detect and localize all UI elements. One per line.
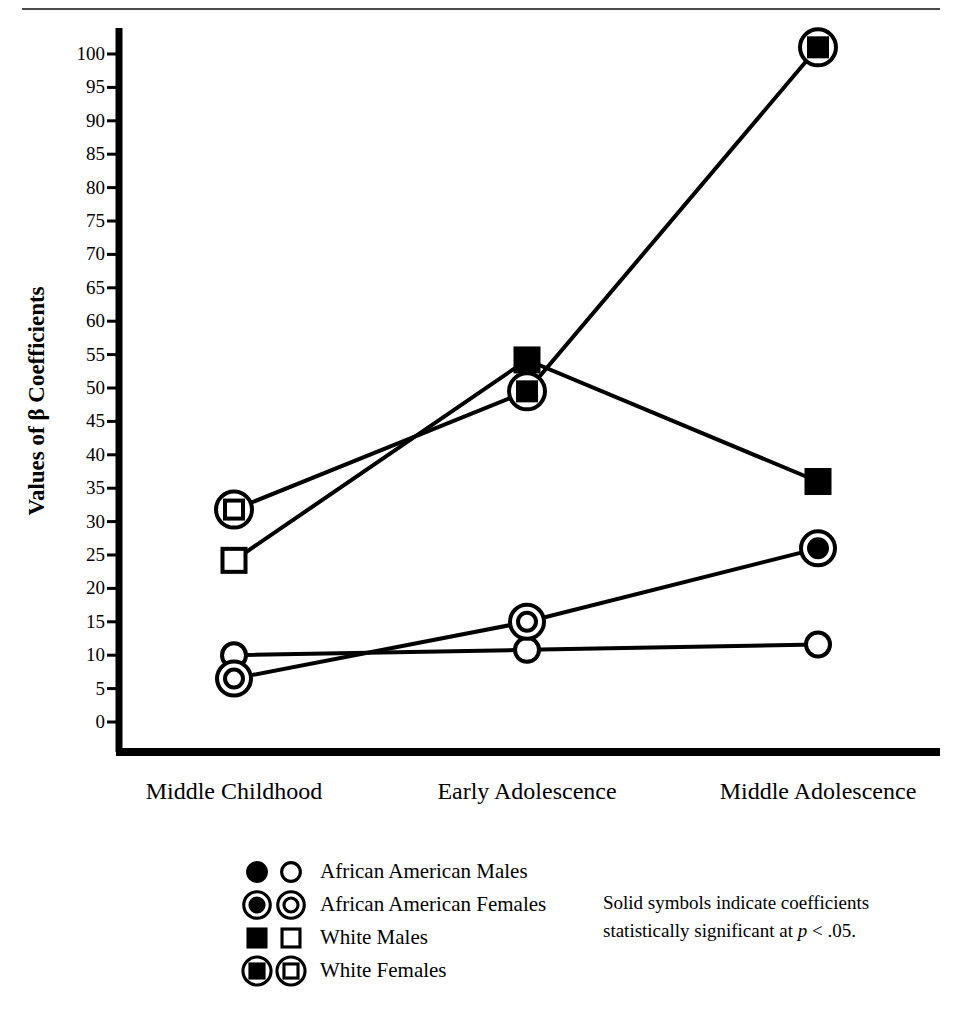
- legend-solid-square-in-circle-icon: [240, 955, 274, 987]
- data-point-marker: [282, 862, 301, 881]
- page-root: Values of β Coefficients 051015202530354…: [0, 0, 962, 1015]
- data-point-marker: [216, 492, 252, 528]
- legend-item-square-in-circle: White Females: [240, 954, 620, 987]
- data-point-marker: [807, 470, 830, 493]
- note-line-2: statistically significant at p < .05.: [603, 917, 943, 945]
- data-point-marker: [248, 862, 267, 881]
- legend-open-circle-in-circle-icon: [274, 889, 308, 921]
- legend-item-circle-in-circle: African American Females: [240, 888, 620, 921]
- note-p-symbol: p: [798, 920, 808, 941]
- data-point-marker: [278, 891, 305, 918]
- legend-item-circle: African American Males: [240, 855, 620, 888]
- data-point-marker: [217, 662, 251, 696]
- legend-label: White Males: [318, 925, 428, 950]
- legend-open-circle-icon: [274, 856, 308, 888]
- data-point-marker: [800, 29, 836, 65]
- legend-item-square: White Males: [240, 921, 620, 954]
- note-line-2-post: < .05.: [807, 920, 856, 941]
- legend-open-square-in-circle-icon: [274, 955, 308, 987]
- legend-open-square-icon: [274, 922, 308, 954]
- chart-legend: African American MalesAfrican American F…: [240, 855, 620, 987]
- data-point-marker: [243, 956, 271, 984]
- data-point-marker: [244, 891, 271, 918]
- note-line-2-pre: statistically significant at: [603, 920, 798, 941]
- legend-solid-circle-in-circle-icon: [240, 889, 274, 921]
- data-point-marker: [223, 549, 246, 572]
- legend-label: African American Males: [318, 859, 528, 884]
- data-point-marker: [515, 638, 539, 662]
- legend-label: African American Females: [318, 892, 546, 917]
- plot-area: [0, 0, 962, 800]
- data-point-marker: [516, 348, 539, 371]
- data-point-marker: [801, 531, 835, 565]
- legend-solid-circle-icon: [240, 856, 274, 888]
- significance-note: Solid symbols indicate coefficients stat…: [603, 889, 943, 944]
- data-point-marker: [248, 929, 266, 947]
- data-point-marker: [282, 929, 300, 947]
- data-point-marker: [806, 633, 830, 657]
- note-line-1: Solid symbols indicate coefficients: [603, 889, 943, 917]
- data-point-marker: [277, 956, 305, 984]
- data-point-marker: [509, 373, 545, 409]
- series-line: [234, 47, 818, 509]
- data-point-marker: [510, 605, 544, 639]
- legend-solid-square-icon: [240, 922, 274, 954]
- legend-label: White Females: [318, 958, 447, 983]
- line-chart: Values of β Coefficients 051015202530354…: [0, 0, 962, 800]
